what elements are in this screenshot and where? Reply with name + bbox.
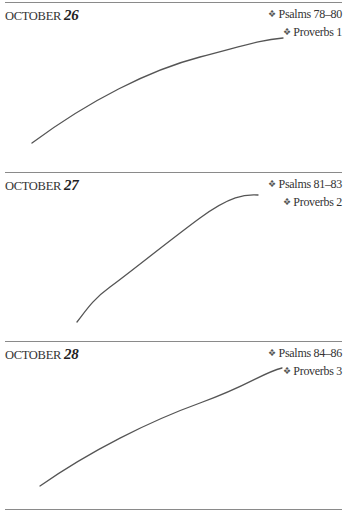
bottom-divider-line <box>5 509 342 510</box>
handwritten-stroke <box>0 2 349 172</box>
entry-october-28: October28 ❖Psalms 84–86 ❖Proverbs 3 <box>0 341 349 509</box>
entry-october-26: October26 ❖Psalms 78–80 ❖Proverbs 1 <box>0 2 349 172</box>
entry-october-27: October27 ❖Psalms 81–83 ❖Proverbs 2 <box>0 172 349 341</box>
handwritten-stroke <box>0 341 349 509</box>
handwritten-stroke <box>0 172 349 341</box>
